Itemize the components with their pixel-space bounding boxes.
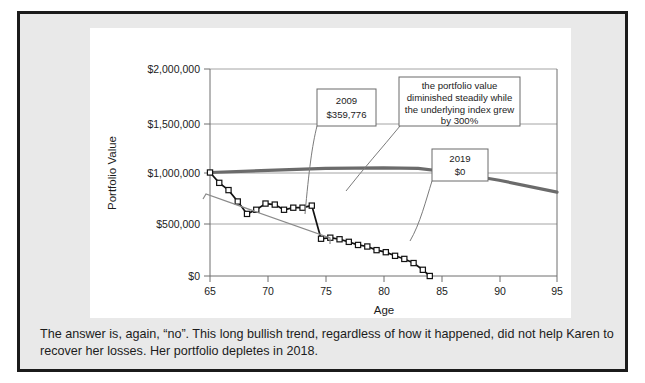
screenshot-page: $2,000,000 $1,500,000 $1,000,000 $500,00… (0, 0, 645, 383)
callout-description-line-1: the portfolio value (422, 80, 498, 91)
data-point-marker (235, 199, 240, 204)
data-point-marker (374, 248, 379, 253)
data-point-marker (346, 239, 351, 244)
data-point-marker (309, 203, 314, 208)
data-point-marker (244, 211, 249, 216)
x-tick-label-70: 70 (262, 285, 274, 297)
portfolio-value-chart: $2,000,000 $1,500,000 $1,000,000 $500,00… (90, 28, 571, 318)
x-tick-label-65: 65 (204, 285, 216, 297)
data-point-marker (383, 250, 388, 255)
y-tick-label-0: $0 (188, 270, 200, 282)
data-point-marker (411, 260, 416, 265)
data-point-marker (226, 188, 231, 193)
callout-2019-line-2: $0 (455, 166, 466, 177)
callout-description-line-4: by 300% (441, 115, 479, 126)
data-point-marker (263, 201, 268, 206)
callout-2019: 2019 $0 (432, 149, 488, 181)
data-point-marker (392, 253, 397, 258)
data-point-marker (318, 236, 323, 241)
callout-description-line-2: diminished steadily while (407, 92, 513, 103)
data-point-marker (355, 242, 360, 247)
data-point-marker (207, 170, 212, 175)
leader-2019 (410, 181, 432, 241)
data-point-marker (337, 237, 342, 242)
data-point-marker (365, 244, 370, 249)
caption-text: The answer is, again, “no”. This long bu… (40, 326, 615, 360)
x-axis-title: Age (374, 304, 394, 316)
x-tick-label-90: 90 (494, 285, 506, 297)
callout-description-line-3: the underlying index grew (405, 104, 514, 115)
data-point-marker (281, 207, 286, 212)
y-tick-label-1500000: $1,500,000 (147, 118, 200, 130)
y-tick-label-1000000: $1,000,000 (147, 167, 200, 179)
y-tick-label-500000: $500,000 (156, 218, 200, 230)
x-tick-label-95: 95 (551, 285, 563, 297)
data-point-marker (427, 273, 432, 278)
data-point-marker (217, 180, 222, 185)
chart-panel: $2,000,000 $1,500,000 $1,000,000 $500,00… (90, 28, 571, 318)
data-point-marker (291, 205, 296, 210)
data-point-marker (272, 202, 277, 207)
y-tick-labels: $2,000,000 $1,500,000 $1,000,000 $500,00… (147, 63, 200, 282)
y-tick-label-2000000: $2,000,000 (147, 63, 200, 75)
callout-2019-line-1: 2019 (449, 153, 470, 164)
data-point-marker (420, 267, 425, 272)
leader-description (346, 126, 400, 191)
callout-2009-line-1: 2009 (336, 95, 357, 106)
x-tick-label-80: 80 (378, 285, 390, 297)
callout-description: the portfolio value diminished steadily … (399, 77, 520, 126)
data-point-marker (402, 256, 407, 261)
data-point-marker (300, 205, 305, 210)
x-tick-label-85: 85 (436, 285, 448, 297)
x-tick-labels: 65 70 75 80 85 90 95 (204, 285, 563, 297)
series-underlying-index (210, 168, 557, 192)
y-axis-title: Portfolio Value (106, 136, 118, 210)
slide-frame: $2,000,000 $1,500,000 $1,000,000 $500,00… (17, 11, 628, 372)
x-tick-label-75: 75 (320, 285, 332, 297)
x-axis-ticks (210, 276, 557, 282)
callout-2009-line-2: $359,776 (326, 109, 366, 120)
callout-2009: 2009 $359,776 (317, 89, 376, 126)
